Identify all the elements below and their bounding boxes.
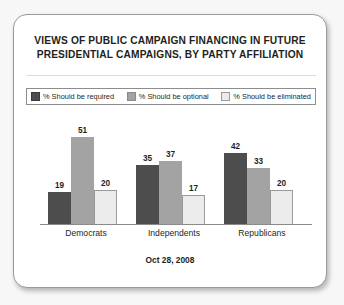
- bar-group-independents: 35 37 17: [136, 115, 205, 225]
- chart-title-line-2: PRESIDENTIAL CAMPAIGNS, BY PARTY AFFILIA…: [14, 48, 326, 62]
- bar-group-democrats: 19 51 20: [48, 115, 117, 225]
- bar-slot-republicans-optional: 33: [247, 115, 270, 225]
- bar-group-republicans: 42 33 20: [224, 115, 293, 225]
- bar-value-independents-eliminated: 17: [189, 184, 198, 194]
- bar-independents-eliminated: [182, 195, 205, 225]
- chart-title-line-1: VIEWS OF PUBLIC CAMPAIGN FINANCING IN FU…: [14, 34, 326, 48]
- bar-slot-democrats-required: 19: [48, 115, 71, 225]
- x-axis-line: [40, 224, 312, 225]
- chart-viewport: VIEWS OF PUBLIC CAMPAIGN FINANCING IN FU…: [0, 0, 344, 305]
- bar-democrats-optional: [71, 137, 94, 225]
- bar-slot-independents-optional: 37: [159, 115, 182, 225]
- bar-slot-independents-eliminated: 17: [182, 115, 205, 225]
- bar-slot-democrats-optional: 51: [71, 115, 94, 225]
- bar-slot-republicans-eliminated: 20: [270, 115, 293, 225]
- bar-republicans-optional: [247, 168, 270, 225]
- bar-value-republicans-required: 42: [231, 142, 240, 152]
- chart-card: VIEWS OF PUBLIC CAMPAIGN FINANCING IN FU…: [13, 14, 327, 288]
- chart-date: Oct 28, 2008: [14, 255, 326, 265]
- x-axis-label-democrats: Democrats: [40, 228, 132, 238]
- bar-republicans-eliminated: [270, 190, 293, 225]
- legend-label-optional: % Should be optional: [139, 92, 209, 101]
- legend-label-required: % Should be required: [43, 92, 114, 101]
- x-axis-label-republicans: Republicans: [216, 228, 308, 238]
- legend-swatch-optional: [127, 92, 136, 101]
- bar-value-democrats-optional: 51: [78, 126, 87, 136]
- legend-item-required: % Should be required: [31, 92, 114, 101]
- bar-value-republicans-optional: 33: [254, 157, 263, 167]
- chart-legend: % Should be required % Should be optiona…: [26, 88, 316, 105]
- bar-slot-independents-required: 35: [136, 115, 159, 225]
- bar-independents-required: [136, 165, 159, 225]
- chart-title: VIEWS OF PUBLIC CAMPAIGN FINANCING IN FU…: [14, 34, 326, 62]
- legend-swatch-required: [31, 92, 40, 101]
- bar-value-independents-required: 35: [143, 154, 152, 164]
- legend-swatch-eliminated: [221, 92, 230, 101]
- x-axis-label-independents: Independents: [128, 228, 220, 238]
- bar-democrats-eliminated: [94, 190, 117, 225]
- legend-item-eliminated: % Should be eliminated: [221, 92, 311, 101]
- bar-slot-republicans-required: 42: [224, 115, 247, 225]
- plot-area: 19 51 20 35 37: [40, 115, 310, 225]
- bar-value-democrats-required: 19: [55, 181, 64, 191]
- bar-slot-democrats-eliminated: 20: [94, 115, 117, 225]
- bar-value-republicans-eliminated: 20: [277, 179, 286, 189]
- title-divider: [26, 75, 316, 76]
- bar-democrats-required: [48, 192, 71, 225]
- bar-independents-optional: [159, 161, 182, 225]
- bar-value-independents-optional: 37: [166, 150, 175, 160]
- bar-republicans-required: [224, 153, 247, 225]
- legend-label-eliminated: % Should be eliminated: [233, 92, 311, 101]
- bar-value-democrats-eliminated: 20: [101, 179, 110, 189]
- legend-item-optional: % Should be optional: [127, 92, 209, 101]
